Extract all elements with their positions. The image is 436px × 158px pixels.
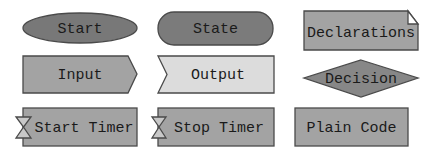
shape-stop-timer[interactable]: Stop Timer xyxy=(152,108,274,146)
shape-start-timer[interactable]: Start Timer xyxy=(16,108,137,146)
shape-declarations[interactable]: Declarations xyxy=(304,11,418,50)
shape-state[interactable]: State xyxy=(158,12,273,45)
stop-timer-label: Stop Timer xyxy=(174,120,264,137)
shape-plain-code[interactable]: Plain Code xyxy=(295,108,408,146)
plain-code-label: Plain Code xyxy=(306,120,396,137)
input-label: Input xyxy=(57,67,102,84)
state-label: State xyxy=(193,21,238,38)
start-label: Start xyxy=(57,21,102,38)
decision-label: Decision xyxy=(325,71,397,88)
output-label: Output xyxy=(191,67,245,84)
declarations-label: Declarations xyxy=(307,25,415,42)
declarations-fold xyxy=(408,11,418,24)
shape-input[interactable]: Input xyxy=(23,56,137,93)
shape-start[interactable]: Start xyxy=(23,13,137,43)
shape-palette: Start State Declarations Input Output De… xyxy=(0,0,436,158)
shape-decision[interactable]: Decision xyxy=(304,60,418,97)
shape-output[interactable]: Output xyxy=(158,56,274,93)
start-timer-label: Start Timer xyxy=(34,120,133,137)
